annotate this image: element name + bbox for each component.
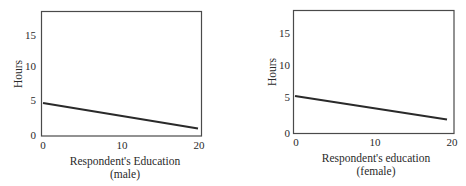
y-tick-15: 15 (279, 27, 291, 39)
x-tick-20: 20 (447, 136, 459, 148)
chart-panel-male: 15 10 5 0 0 10 20 Hours Respondent's Edu… (12, 12, 205, 182)
x-axis-sublabel: (female) (357, 165, 396, 178)
y-tick-10: 10 (279, 59, 291, 71)
y-tick-15: 15 (25, 29, 37, 41)
y-tick-0: 0 (285, 127, 291, 139)
y-tick-10: 10 (25, 60, 37, 72)
plot-frame (42, 12, 202, 137)
x-tick-10: 10 (370, 136, 382, 148)
x-axis-label: Respondent's Education (70, 155, 181, 168)
regression-line-male (43, 103, 198, 129)
regression-line-female (295, 96, 447, 120)
y-axis-label: Hours (266, 57, 278, 86)
chart-panel-female: 15 10 5 0 0 10 20 Hours Respondent's edu… (266, 11, 458, 179)
x-axis-sublabel: (male) (110, 168, 140, 181)
y-tick-0: 0 (31, 129, 37, 141)
y-tick-5: 5 (31, 94, 37, 106)
x-tick-20: 20 (194, 139, 206, 151)
y-tick-5: 5 (285, 91, 291, 103)
x-tick-10: 10 (117, 139, 129, 151)
figure: 15 10 5 0 0 10 20 Hours Respondent's Edu… (0, 0, 466, 186)
x-tick-0: 0 (40, 139, 46, 151)
plot-frame (294, 11, 455, 134)
x-axis-label: Respondent's education (322, 152, 431, 165)
y-axis-label: Hours (12, 59, 24, 88)
x-tick-0: 0 (293, 136, 299, 148)
